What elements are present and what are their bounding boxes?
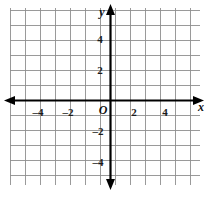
y-axis-arrow-down: [106, 179, 115, 190]
x-axis-arrow-right: [193, 96, 204, 105]
y-axis-arrow-up: [106, 4, 115, 15]
coordinate-plane-figure: –4 –2 2 4 4 2 –2 –4 x y O: [0, 0, 216, 202]
x-axis-arrow-left: [4, 96, 15, 105]
axis-layer: [0, 0, 216, 202]
